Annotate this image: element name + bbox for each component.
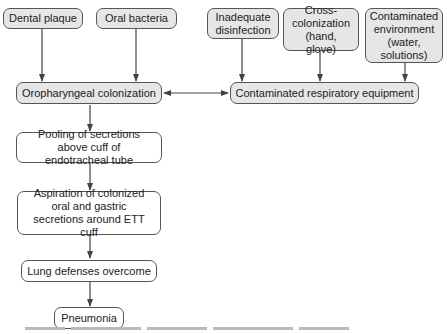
node-oropharyngeal-colonization: Oropharyngeal colonization (16, 82, 162, 104)
node-inadequate-disinfection: Inadequate disinfection (207, 8, 279, 39)
node-dental-plaque: Dental plaque (3, 8, 83, 29)
node-lung-defenses-overcome: Lung defenses overcome (21, 260, 157, 282)
figure-caption-cropped (25, 327, 415, 334)
node-oral-bacteria: Oral bacteria (96, 8, 177, 29)
node-cross-colonization: Cross-colonization (hand, glove) (283, 8, 359, 51)
node-contaminated-environment: Contaminated environment (water, solutio… (365, 8, 443, 63)
node-pooling-of-secretions: Pooling of secretions above cuff of endo… (16, 132, 162, 163)
node-contaminated-respiratory-equipment: Contaminated respiratory equipment (230, 82, 419, 104)
node-pneumonia: Pneumonia (54, 307, 124, 329)
node-aspiration: Aspiration of colonized oral and gastric… (17, 191, 161, 235)
